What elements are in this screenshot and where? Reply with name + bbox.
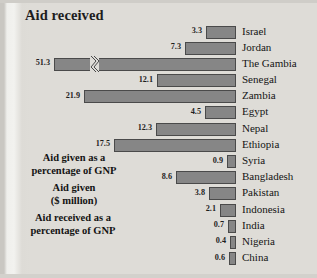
bar-row: 12.3Nepal: [0, 121, 317, 137]
annotation-line: Aid given: [4, 182, 144, 195]
chart-title: Aid received: [25, 7, 104, 24]
bar-value-label: 0.7: [194, 220, 224, 229]
bar-value-label: 0.9: [193, 156, 223, 165]
bar-row: 7.3Jordan: [0, 40, 317, 56]
bar-value-label: 21.9: [50, 91, 80, 100]
bar-value-label: 2.1: [186, 204, 216, 213]
bar-row: 3.3Israel: [0, 24, 317, 40]
bar-category-label: Zambia: [242, 89, 276, 101]
bar-row: 51.3The Gambia: [0, 56, 317, 72]
annotation-line: Aid received as a: [0, 212, 146, 225]
bar: [176, 171, 236, 184]
bar-category-label: Pakistan: [242, 186, 279, 198]
annotation-line: percentage of GNP: [0, 225, 146, 238]
bar-value-label: 8.6: [142, 172, 172, 181]
bar-category-label: China: [242, 251, 268, 263]
axis-break-marker: [90, 56, 99, 72]
bar: [209, 187, 236, 200]
bar-category-label: Indonesia: [242, 203, 285, 215]
bar-category-label: Bangladesh: [242, 170, 293, 182]
bar: [220, 204, 236, 217]
bar-row: 21.9Zambia: [0, 89, 317, 105]
bar: [230, 236, 236, 249]
bar: [229, 252, 236, 265]
bar-value-label: 4.5: [171, 107, 201, 116]
annotation-aid-given-dollars: Aid given($ million): [4, 182, 144, 207]
bar: [54, 58, 236, 71]
bar: [185, 42, 236, 55]
bar-category-label: Jordan: [242, 41, 271, 53]
annotation-line: Aid given as a: [4, 152, 144, 165]
bar-value-label: 12.1: [123, 75, 153, 84]
bar-value-label: 0.6: [195, 253, 225, 262]
bar: [114, 139, 236, 152]
bar: [228, 220, 236, 233]
bar: [157, 74, 236, 87]
bar-value-label: 3.3: [172, 26, 202, 35]
bar-row: 12.1Senegal: [0, 73, 317, 89]
annotation-line: ($ million): [4, 195, 144, 208]
bar-value-label: 51.3: [20, 58, 50, 67]
bar: [227, 155, 236, 168]
bar: [205, 106, 236, 119]
chart-page: Aid received 3.3Israel7.3Jordan51.3The G…: [0, 0, 317, 278]
bar-category-label: Israel: [242, 25, 266, 37]
bar: [206, 26, 236, 39]
bar-category-label: Nigeria: [242, 235, 275, 247]
bar-value-label: 7.3: [151, 42, 181, 51]
bar-category-label: Ethiopia: [242, 138, 279, 150]
annotation-aid-received-pct-gnp: Aid received as apercentage of GNP: [0, 212, 146, 237]
bar-category-label: Egypt: [242, 105, 268, 117]
bar-category-label: The Gambia: [242, 57, 297, 69]
bar-value-label: 0.4: [196, 236, 226, 245]
bar: [84, 90, 236, 103]
annotation-aid-given-pct-gnp: Aid given as apercentage of GNP: [4, 152, 144, 177]
bar-category-label: Senegal: [242, 73, 277, 85]
bar-row: 0.6China: [0, 251, 317, 267]
annotation-line: percentage of GNP: [4, 165, 144, 178]
bar-value-label: 17.5: [80, 139, 110, 148]
page-bottom-edge: [0, 274, 317, 278]
bar-category-label: India: [242, 219, 265, 231]
page-top-edge: [0, 0, 317, 3]
bar-value-label: 12.3: [122, 123, 152, 132]
bar-category-label: Syria: [242, 154, 265, 166]
bar-category-label: Nepal: [242, 122, 268, 134]
bar-row: 4.5Egypt: [0, 105, 317, 121]
bar: [156, 123, 236, 136]
bar-value-label: 3.8: [175, 188, 205, 197]
